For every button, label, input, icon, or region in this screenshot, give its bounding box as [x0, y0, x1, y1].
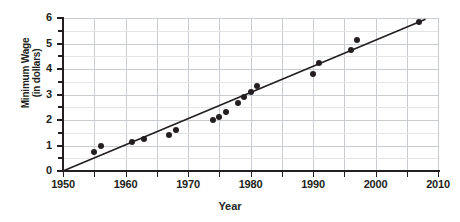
- x-axis-tick-label: 1960: [106, 178, 146, 190]
- y-axis-tick: [57, 94, 63, 96]
- x-axis-tick-label: 1990: [293, 178, 333, 190]
- gridline-horizontal: [63, 107, 438, 108]
- minimum-wage-scatter-chart: Minimum Wage (in dollars) Year 195019601…: [0, 0, 460, 222]
- x-axis-tick: [157, 172, 158, 177]
- x-axis-tick-label: 1980: [231, 178, 271, 190]
- x-axis-tick: [251, 172, 252, 177]
- y-axis-tick: [57, 17, 63, 19]
- x-axis-tick: [282, 172, 283, 177]
- y-axis-tick: [58, 106, 63, 108]
- x-axis-tick: [438, 172, 439, 177]
- y-axis-tick: [58, 30, 63, 32]
- y-axis-tick: [57, 43, 63, 45]
- data-point: [248, 89, 254, 95]
- y-axis-tick-label: 5: [38, 37, 52, 49]
- gridline-horizontal: [63, 18, 438, 19]
- y-axis-tick: [58, 157, 63, 159]
- y-axis-tick-label: 6: [38, 11, 52, 23]
- gridline-horizontal: [63, 44, 438, 45]
- y-axis-tick: [58, 55, 63, 57]
- gridline-horizontal: [63, 146, 438, 147]
- data-point: [348, 47, 354, 53]
- data-point: [210, 117, 216, 123]
- y-axis-tick-label: 3: [38, 88, 52, 100]
- x-axis-tick: [313, 172, 314, 177]
- x-axis-title: Year: [0, 200, 460, 212]
- gridline-horizontal: [63, 133, 438, 134]
- data-point: [223, 109, 229, 115]
- x-axis-tick: [344, 172, 345, 177]
- data-point: [316, 60, 322, 66]
- gridline-horizontal: [63, 31, 438, 32]
- x-axis-tick: [188, 172, 189, 177]
- x-axis-tick: [407, 172, 408, 177]
- gridline-horizontal: [63, 56, 438, 57]
- y-axis-tick-label: 0: [38, 164, 52, 176]
- y-axis-tick-label: 2: [38, 113, 52, 125]
- y-axis-tick: [57, 68, 63, 70]
- y-axis-tick: [58, 81, 63, 83]
- y-axis-tick-label: 4: [38, 62, 52, 74]
- x-axis-tick-label: 2000: [356, 178, 396, 190]
- y-axis-title-line1: Minimum Wage: [20, 38, 31, 109]
- x-axis-tick: [376, 172, 377, 177]
- data-point: [354, 37, 360, 43]
- data-point: [254, 83, 260, 89]
- gridline-horizontal: [63, 69, 438, 70]
- y-axis-tick: [57, 119, 63, 121]
- data-point: [98, 143, 104, 149]
- y-axis-tick-label: 1: [38, 139, 52, 151]
- x-axis-tick-label: 1950: [43, 178, 83, 190]
- x-axis-tick: [94, 172, 95, 177]
- gridline-horizontal: [63, 158, 438, 159]
- x-axis-tick-label: 1970: [168, 178, 208, 190]
- gridline-horizontal: [63, 120, 438, 121]
- x-axis-tick: [63, 172, 64, 177]
- x-axis-tick: [219, 172, 220, 177]
- y-axis-tick: [57, 170, 63, 172]
- x-axis-tick: [126, 172, 127, 177]
- y-axis-tick: [58, 132, 63, 134]
- data-point: [129, 139, 135, 145]
- y-axis-tick: [57, 145, 63, 147]
- data-point: [173, 127, 179, 133]
- x-axis-tick-label: 2010: [418, 178, 458, 190]
- gridline-horizontal: [63, 82, 438, 83]
- gridline-vertical: [438, 18, 439, 171]
